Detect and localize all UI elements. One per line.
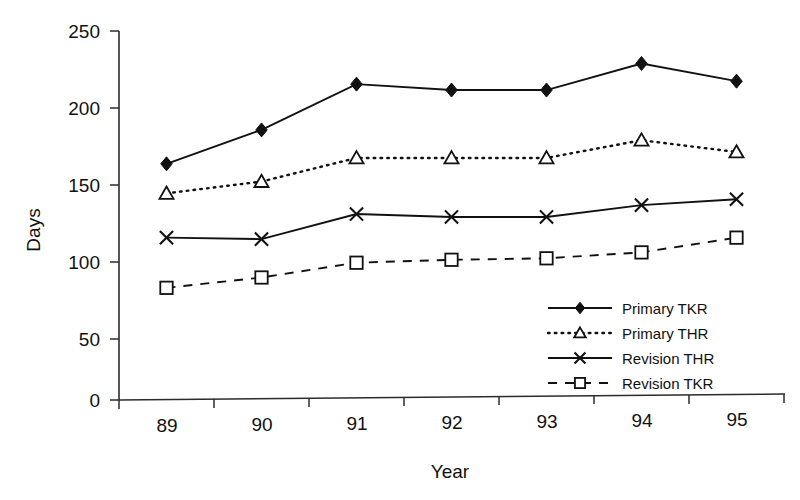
x-tick-labels: 89 90 91 92 93 94 95	[156, 409, 747, 436]
data-point-marker	[730, 231, 742, 243]
x-tick-label: 93	[536, 411, 557, 432]
x-tick-label: 92	[441, 412, 462, 433]
data-point-marker	[254, 175, 268, 187]
data-point-marker	[731, 74, 742, 88]
y-tick-marks	[110, 31, 119, 400]
data-point-marker	[575, 302, 584, 313]
data-point-marker	[446, 83, 457, 97]
series-line	[167, 199, 737, 239]
x-tick-label: 90	[251, 414, 272, 435]
series-layer	[159, 56, 743, 294]
y-tick-label: 150	[68, 175, 100, 196]
x-axis-line	[119, 394, 785, 400]
data-point-marker	[256, 123, 267, 137]
y-tick-label: 100	[68, 252, 100, 273]
series-revision-tkr	[160, 231, 742, 294]
y-tick-label: 50	[79, 329, 100, 350]
data-point-marker	[575, 378, 585, 388]
data-point-marker	[161, 157, 172, 171]
chart-svg: Days 250 200 150 100 50 0	[0, 0, 800, 500]
data-point-marker	[350, 257, 362, 269]
data-point-marker	[636, 56, 647, 70]
y-axis-title: Days	[23, 208, 44, 251]
data-point-marker	[635, 246, 647, 258]
data-point-marker	[160, 282, 172, 294]
x-tick-label: 95	[726, 409, 747, 430]
legend-item[interactable]: Primary THR	[548, 325, 709, 342]
series-primary-thr	[159, 133, 743, 198]
chart-legend: Primary TKRPrimary THRRevision THRRevisi…	[548, 300, 714, 392]
y-tick-label: 250	[68, 21, 100, 42]
legend-item[interactable]: Primary TKR	[548, 300, 708, 317]
legend-label: Primary THR	[622, 325, 709, 342]
legend-label: Revision THR	[622, 350, 714, 367]
series-revision-thr	[160, 193, 743, 246]
data-point-marker	[541, 83, 552, 97]
x-axis-title: Year	[431, 461, 470, 482]
x-tick-label: 94	[631, 410, 653, 431]
y-tick-label: 200	[68, 98, 100, 119]
legend-item[interactable]: Revision THR	[548, 350, 714, 367]
legend-item[interactable]: Revision TKR	[548, 375, 714, 392]
data-point-marker	[540, 252, 552, 264]
data-point-marker	[159, 187, 173, 199]
y-tick-label: 0	[89, 390, 100, 411]
line-chart: Days 250 200 150 100 50 0	[0, 0, 800, 500]
legend-label: Revision TKR	[622, 375, 714, 392]
data-point-marker	[255, 271, 267, 283]
x-tick-label: 89	[156, 415, 177, 436]
series-line	[167, 140, 737, 193]
data-point-marker	[445, 254, 457, 266]
x-tick-label: 91	[346, 413, 367, 434]
data-point-marker	[351, 77, 362, 91]
series-line	[167, 63, 737, 163]
data-point-marker	[634, 133, 648, 145]
y-tick-labels: 250 200 150 100 50 0	[68, 21, 100, 411]
legend-label: Primary TKR	[622, 300, 708, 317]
